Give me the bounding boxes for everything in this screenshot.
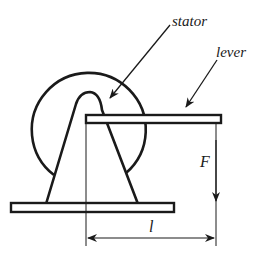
stator-label: stator [172, 13, 207, 29]
length-label: l [149, 218, 154, 235]
stator-lever-diagram: stator lever F l [0, 0, 258, 259]
lever-pointer-arrow [186, 60, 217, 107]
lever-label: lever [216, 44, 246, 60]
force-label: F [199, 153, 210, 170]
lever-bar [86, 115, 221, 123]
support-frame [46, 92, 138, 204]
stator-pointer-arrow [110, 25, 170, 98]
base-plate [11, 203, 174, 212]
